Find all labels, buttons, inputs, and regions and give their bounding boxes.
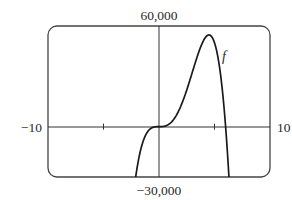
function-graph: 60,000 −30,000 −10 10 f (0, 0, 292, 200)
x-min-label: −10 (21, 120, 42, 135)
curve-label-f: f (222, 49, 228, 64)
x-max-label: 10 (277, 120, 291, 135)
y-max-label: 60,000 (140, 8, 177, 23)
curve-f (133, 35, 233, 200)
y-min-label: −30,000 (137, 183, 182, 198)
